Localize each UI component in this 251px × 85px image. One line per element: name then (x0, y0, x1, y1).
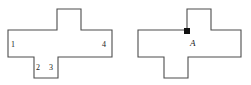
left-cross-label-1: 1 (11, 41, 15, 49)
left-cross-polygon (8, 9, 112, 78)
vertex-marker-a-icon (184, 28, 190, 34)
right-cross-label-a: A (190, 39, 196, 48)
figure-canvas: 1 2 3 4 A (0, 0, 251, 85)
left-cross-label-2: 2 (36, 64, 40, 72)
left-cross-label-3: 3 (49, 64, 53, 72)
polygon-diagram-svg (0, 0, 251, 85)
left-cross-label-4: 4 (102, 41, 106, 49)
